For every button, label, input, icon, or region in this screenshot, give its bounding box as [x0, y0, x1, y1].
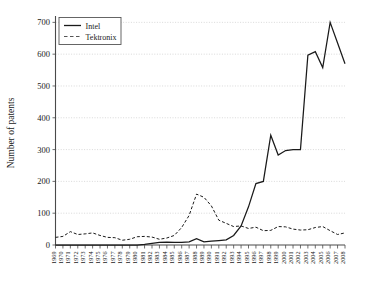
x-tick-label-1984: 1984 — [161, 252, 168, 264]
x-tick-label-1996: 1996 — [250, 252, 257, 264]
x-tick-label-1979: 1979 — [124, 252, 131, 264]
x-tick-label-1997: 1997 — [257, 252, 264, 264]
x-tick-label-1969: 1969 — [50, 252, 57, 264]
x-tick-label-1975: 1975 — [94, 252, 101, 264]
x-tick-label-1991: 1991 — [213, 252, 220, 264]
y-tick-label-0: 0 — [46, 240, 50, 250]
y-tick-label-600: 600 — [37, 49, 50, 59]
y-tick-label-500: 500 — [37, 81, 50, 91]
y-tick-label-300: 300 — [37, 145, 50, 155]
x-tick-label-2007: 2007 — [332, 252, 339, 264]
x-tick-label-1970: 1970 — [57, 252, 64, 264]
y-tick-label-400: 400 — [37, 113, 50, 123]
x-tick-label-1994: 1994 — [235, 252, 242, 264]
data-series — [56, 22, 346, 245]
x-tick-label-1995: 1995 — [243, 252, 250, 264]
x-tick-label-1983: 1983 — [153, 252, 160, 264]
chart-legend: IntelTektronix — [59, 18, 121, 45]
x-tick-label-1985: 1985 — [168, 252, 175, 264]
gridlines — [56, 22, 346, 213]
x-tick-label-2008: 2008 — [339, 252, 346, 264]
x-tick-label-1978: 1978 — [116, 252, 123, 264]
x-tick-label-1971: 1971 — [64, 252, 71, 264]
x-tick-label-1990: 1990 — [205, 252, 212, 264]
x-tick-label-1977: 1977 — [109, 252, 116, 264]
series-line-intel — [56, 22, 346, 245]
y-axis-title: Number of patents — [6, 97, 16, 168]
x-tick-label-2001: 2001 — [287, 252, 294, 264]
legend-label-intel: Intel — [86, 22, 101, 31]
x-tick-label-2005: 2005 — [317, 252, 324, 264]
x-tick-label-1973: 1973 — [79, 252, 86, 264]
x-tick-label-1989: 1989 — [198, 252, 205, 264]
x-tick-label-1988: 1988 — [191, 252, 198, 264]
x-tick-label-2002: 2002 — [294, 252, 301, 264]
x-tick-label-1976: 1976 — [101, 252, 108, 264]
x-tick-label-1998: 1998 — [265, 252, 272, 264]
x-tick-label-1972: 1972 — [72, 252, 79, 264]
x-tick-label-2000: 2000 — [280, 252, 287, 264]
y-tick-label-100: 100 — [37, 208, 50, 218]
x-tick-label-2003: 2003 — [302, 252, 309, 264]
series-line-tektronix — [56, 194, 346, 240]
x-tick-label-1981: 1981 — [139, 252, 146, 264]
x-tick-label-2006: 2006 — [324, 252, 331, 264]
x-tick-label-1993: 1993 — [228, 252, 235, 264]
x-tick-label-1980: 1980 — [131, 252, 138, 264]
x-axis-tick-labels: 1969197019711972197319741975197619771978… — [50, 252, 347, 264]
x-tick-label-1999: 1999 — [272, 252, 279, 264]
patents-line-chart: 0100200300400500600700 19691970197119721… — [0, 0, 365, 285]
x-tick-label-2004: 2004 — [309, 252, 316, 264]
x-tick-label-1982: 1982 — [146, 252, 153, 264]
x-tick-label-1992: 1992 — [220, 252, 227, 264]
legend-label-tektronix: Tektronix — [86, 33, 117, 42]
chart-canvas: 0100200300400500600700 19691970197119721… — [0, 0, 365, 285]
y-tick-label-200: 200 — [37, 176, 50, 186]
y-axis-tick-labels: 0100200300400500600700 — [37, 17, 50, 250]
y-tick-label-700: 700 — [37, 17, 50, 27]
x-tick-label-1987: 1987 — [183, 252, 190, 264]
x-tick-label-1974: 1974 — [87, 252, 94, 264]
x-tick-label-1986: 1986 — [176, 252, 183, 264]
